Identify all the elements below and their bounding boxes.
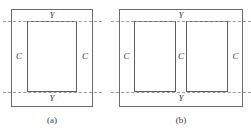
panel-b-label-limb-middle: C	[174, 51, 188, 61]
panel-b-caption: (b)	[161, 115, 201, 126]
panel-a-label-yoke-bottom: Y	[27, 93, 77, 103]
panel-b-label-yoke-top: Y	[161, 10, 201, 20]
panel-b-window-rect-right	[186, 21, 228, 92]
panel-a-dashed-line-top	[3, 21, 102, 22]
panel-b-dashed-line-top	[111, 21, 251, 22]
panel-b-label-yoke-bottom: Y	[161, 93, 201, 103]
panel-a: Y Y C C (a)	[0, 0, 110, 135]
figure-root: Y Y C C (a) Y Y C C C (b)	[0, 0, 251, 135]
panel-a-label-yoke-top: Y	[27, 10, 77, 20]
panel-a-label-limb-left: C	[11, 51, 27, 61]
panel-a-caption: (a)	[27, 115, 77, 126]
panel-a-label-limb-right: C	[77, 51, 93, 61]
panel-a-window-rect	[27, 21, 77, 92]
panel-b-label-limb-right: C	[228, 51, 243, 61]
panel-b-window-rect-left	[134, 21, 176, 92]
panel-b: Y Y C C C (b)	[110, 0, 251, 135]
panel-b-label-limb-left: C	[119, 51, 134, 61]
